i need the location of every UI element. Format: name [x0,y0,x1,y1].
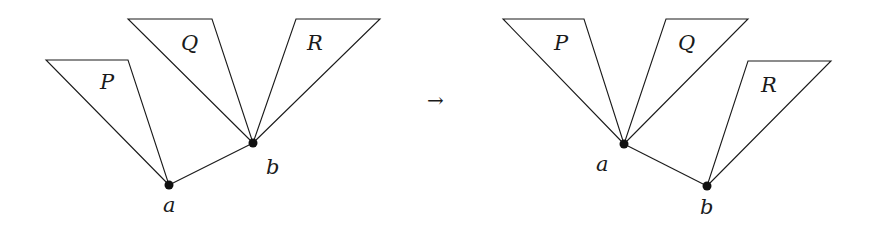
diagram-canvas: P Q R a b → P Q R a b [0,0,870,226]
label-q-after: Q [678,31,695,55]
vertex-a-before [165,181,174,190]
label-b-before: b [266,155,279,179]
label-q-before: Q [181,31,198,55]
label-a-before: a [163,193,176,217]
label-a-after: a [596,152,609,176]
edge-a-b-before [169,143,253,185]
after-configuration: P Q R a b [503,19,831,219]
transform-arrow-icon: → [427,88,444,112]
before-configuration: P Q R a b [46,19,380,217]
label-r-after: R [760,73,777,97]
edge-a-b-after [624,144,707,186]
label-p-before: P [99,70,115,94]
label-p-after: P [553,31,569,55]
vertex-a-after [620,140,629,149]
vertex-b-after [703,182,712,191]
label-r-before: R [306,31,323,55]
label-b-after: b [700,195,713,219]
vertex-b-before [249,139,258,148]
